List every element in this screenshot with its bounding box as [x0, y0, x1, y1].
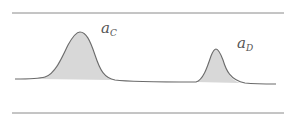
chromatogram-diagram	[0, 0, 297, 119]
peak-c-label-sub: C	[110, 28, 117, 38]
peak-d-label: aD	[237, 36, 253, 53]
peak-c-area	[40, 32, 112, 80]
peak-c-label-base: a	[101, 19, 110, 37]
peak-d-label-base: a	[237, 34, 246, 52]
peak-c-label: aC	[101, 21, 117, 38]
peak-d-label-sub: D	[246, 43, 253, 53]
